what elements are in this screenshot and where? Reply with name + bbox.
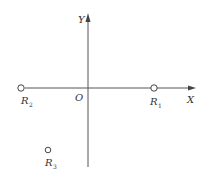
origin-label: O xyxy=(75,92,83,103)
svg-text:R: R xyxy=(44,157,53,168)
x-axis-arrow-icon xyxy=(188,86,196,91)
y-axis-arrow-icon xyxy=(86,13,91,22)
svg-text:2: 2 xyxy=(29,101,33,108)
coordinate-diagram: Y X O R 1 R 2 R 3 xyxy=(0,0,207,186)
point-r1 xyxy=(151,85,157,91)
label-r1: R 1 xyxy=(149,96,162,109)
point-r3 xyxy=(45,147,51,153)
svg-text:R: R xyxy=(20,95,29,106)
label-r3: R 3 xyxy=(44,157,57,170)
x-axis-label: X xyxy=(186,94,195,105)
svg-text:R: R xyxy=(149,96,158,107)
point-r2 xyxy=(18,85,24,91)
svg-text:3: 3 xyxy=(53,163,57,170)
y-axis-label: Y xyxy=(78,14,86,25)
label-r2: R 2 xyxy=(20,95,33,108)
svg-text:1: 1 xyxy=(158,102,162,109)
